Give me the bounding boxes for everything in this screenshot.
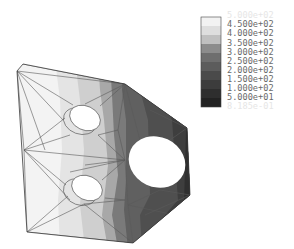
legend-swatch-8 [201,89,221,98]
legend-label-10: 8.185e-01 [227,101,274,111]
legend-swatch-9 [201,98,221,107]
legend-swatch-6 [201,71,221,80]
legend-swatch-4 [201,53,221,62]
legend-swatch-7 [201,80,221,89]
legend-label-2: 4.000e+02 [227,28,274,38]
legend-swatch-0 [201,17,221,26]
legend-swatch-2 [201,35,221,44]
legend: 5.000e+02 4.500e+02 4.000e+02 3.500e+02 … [201,10,274,111]
legend-labels: 5.000e+02 4.500e+02 4.000e+02 3.500e+02 … [227,10,274,111]
legend-swatches [201,17,221,107]
legend-swatch-5 [201,62,221,71]
contour-plot: 5.000e+02 4.500e+02 4.000e+02 3.500e+02 … [0,0,294,249]
legend-swatch-1 [201,26,221,35]
legend-swatch-3 [201,44,221,53]
